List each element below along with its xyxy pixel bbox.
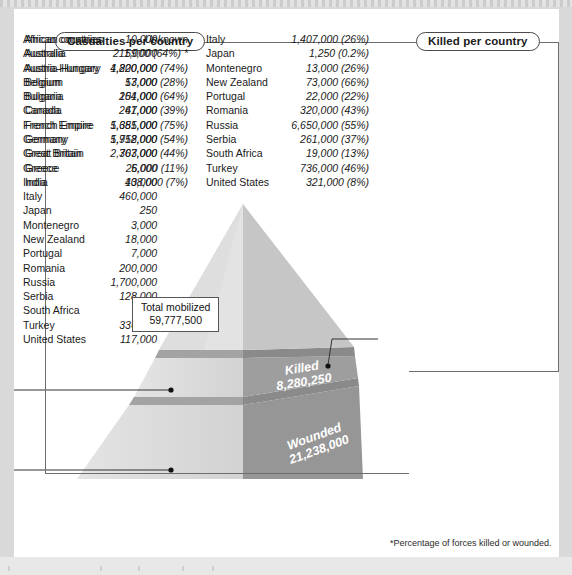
table-row: Austria-Hungary 1,200,000 bbox=[23, 62, 157, 76]
country-value: 250 bbox=[101, 204, 157, 218]
country-value: 59,000 bbox=[101, 47, 157, 61]
top-edge-artifact bbox=[0, 0, 572, 7]
country-name: New Zealand bbox=[206, 76, 279, 90]
table-row: African countries 10,000 bbox=[23, 33, 157, 47]
country-name: Great Britain bbox=[23, 147, 101, 161]
country-name: South Africa bbox=[206, 147, 279, 161]
table-row: Russia 6,650,000 (55%) bbox=[206, 119, 369, 133]
killed-panel: Killed per country bbox=[409, 42, 559, 372]
table-row: Canada 67,000 bbox=[23, 104, 157, 118]
country-name: Russia bbox=[23, 276, 101, 290]
country-value: 1,385,000 bbox=[101, 119, 157, 133]
country-name: United States bbox=[206, 176, 279, 190]
country-value: 460,000 bbox=[101, 190, 157, 204]
table-row: Bulgaria 101,000 bbox=[23, 90, 157, 104]
country-name: Russia bbox=[206, 119, 279, 133]
country-name: Japan bbox=[206, 47, 279, 61]
table-row: Turkey 736,000 (46%) bbox=[206, 162, 369, 176]
country-name: Montenegro bbox=[206, 62, 279, 76]
country-name: Turkey bbox=[206, 162, 279, 176]
country-value: 320,000 (43%) bbox=[279, 104, 369, 118]
country-value: 43,000 bbox=[101, 176, 157, 190]
country-name: South Africa bbox=[23, 304, 101, 318]
total-mobilized-label: Total mobilized bbox=[141, 301, 210, 314]
country-value: 10,000 bbox=[101, 33, 157, 47]
country-value: 261,000 (37%) bbox=[279, 133, 369, 147]
country-name: French Empire bbox=[23, 119, 101, 133]
table-row: Russia 1,700,000 bbox=[23, 276, 157, 290]
country-value: 736,000 (46%) bbox=[279, 162, 369, 176]
country-name: Bulgaria bbox=[23, 90, 101, 104]
table-row: Italy 1,407,000 (26%) bbox=[206, 33, 369, 47]
table-row: Japan 1,250 (0.2%) bbox=[206, 47, 369, 61]
country-value: 3,000 bbox=[101, 219, 157, 233]
country-name: India bbox=[23, 176, 101, 190]
country-value: 13,000 (26%) bbox=[279, 62, 369, 76]
country-name: Romania bbox=[206, 104, 279, 118]
country-value: 101,000 bbox=[101, 90, 157, 104]
country-name: Portugal bbox=[206, 90, 279, 104]
table-row: French Empire 1,385,000 bbox=[23, 119, 157, 133]
country-name: Montenegro bbox=[23, 219, 101, 233]
country-name: Australia bbox=[23, 47, 101, 61]
table-row: United States 117,000 bbox=[23, 333, 157, 347]
country-name: Romania bbox=[23, 262, 101, 276]
country-name: Serbia bbox=[206, 133, 279, 147]
country-value: 18,000 bbox=[101, 233, 157, 247]
table-row: Greece 5,000 bbox=[23, 162, 157, 176]
casualties-table-col2: Italy 1,407,000 (26%) Japan 1,250 (0.2%)… bbox=[206, 33, 369, 190]
country-name: Canada bbox=[23, 104, 101, 118]
country-value: 19,000 (13%) bbox=[279, 147, 369, 161]
country-value: 7,000 bbox=[101, 247, 157, 261]
table-row: Portugal 22,000 (22%) bbox=[206, 90, 369, 104]
country-value: 5,000 bbox=[101, 162, 157, 176]
table-row: Montenegro 3,000 bbox=[23, 219, 157, 233]
table-row: Belgium 13,000 bbox=[23, 76, 157, 90]
country-value: 73,000 (66%) bbox=[279, 76, 369, 90]
country-name: Turkey bbox=[23, 319, 101, 333]
table-row: India 43,000 bbox=[23, 176, 157, 190]
country-name: Italy bbox=[206, 33, 279, 47]
table-row: United States 321,000 (8%) bbox=[206, 176, 369, 190]
country-value: 1,250 (0.2%) bbox=[279, 47, 369, 61]
country-value: 1,200,000 bbox=[101, 62, 157, 76]
country-name: Belgium bbox=[23, 76, 101, 90]
infographic-page: Killed 8,280,250 Wounded 21,238,000 Casu… bbox=[14, 9, 559, 557]
table-row: Australia 59,000 bbox=[23, 47, 157, 61]
table-row: Montenegro 13,000 (26%) bbox=[206, 62, 369, 76]
country-value: 1,700,000 bbox=[101, 276, 157, 290]
country-name: Japan bbox=[23, 204, 101, 218]
country-name: Italy bbox=[23, 190, 101, 204]
table-row: New Zealand 18,000 bbox=[23, 233, 157, 247]
country-name: New Zealand bbox=[23, 233, 101, 247]
bottom-edge-artifact bbox=[0, 557, 572, 575]
country-value: 67,000 bbox=[101, 104, 157, 118]
country-name: Serbia bbox=[23, 290, 101, 304]
country-name: United States bbox=[23, 333, 101, 347]
country-name: Portugal bbox=[23, 247, 101, 261]
country-value: 13,000 bbox=[101, 76, 157, 90]
total-mobilized-value: 59,777,500 bbox=[141, 314, 210, 327]
table-row: Great Britain 703,000 bbox=[23, 147, 157, 161]
table-row: Romania 200,000 bbox=[23, 262, 157, 276]
country-value: 6,650,000 (55%) bbox=[279, 119, 369, 133]
country-value: 117,000 bbox=[101, 333, 157, 347]
country-value: 1,718,000 bbox=[101, 133, 157, 147]
table-row: New Zealand 73,000 (66%) bbox=[206, 76, 369, 90]
table-row: South Africa 19,000 (13%) bbox=[206, 147, 369, 161]
footnote: *Percentage of forces killed or wounded. bbox=[390, 538, 552, 548]
country-name: Austria-Hungary bbox=[23, 62, 101, 76]
country-value: 22,000 (22%) bbox=[279, 90, 369, 104]
table-row: Serbia 261,000 (37%) bbox=[206, 133, 369, 147]
country-name: Greece bbox=[23, 162, 101, 176]
country-name: Germany bbox=[23, 133, 101, 147]
table-row: Germany 1,718,000 bbox=[23, 133, 157, 147]
country-name: African countries bbox=[23, 33, 101, 47]
table-row: Portugal 7,000 bbox=[23, 247, 157, 261]
country-value: 703,000 bbox=[101, 147, 157, 161]
killed-panel-title: Killed per country bbox=[416, 32, 540, 51]
table-row: Italy 460,000 bbox=[23, 190, 157, 204]
table-row: Romania 320,000 (43%) bbox=[206, 104, 369, 118]
country-value: 321,000 (8%) bbox=[279, 176, 369, 190]
total-mobilized-callout: Total mobilized 59,777,500 bbox=[132, 297, 219, 332]
